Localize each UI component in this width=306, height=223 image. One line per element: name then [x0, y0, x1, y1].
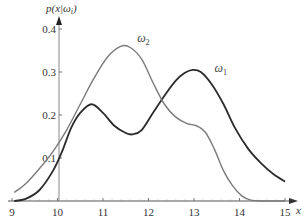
y-axis-arrow-icon	[56, 16, 62, 25]
x-tick-label: 9	[9, 206, 15, 218]
y-tick-label: 0.4	[42, 23, 56, 35]
x-axis-title: x	[295, 204, 301, 216]
x-tick-label: 15	[280, 206, 292, 218]
y-tick-label: 0.3	[42, 66, 56, 78]
series-label-2: ω2	[137, 31, 149, 47]
series-line-1	[14, 70, 285, 201]
x-tick-label: 10	[52, 206, 64, 218]
x-tick-label: 11	[98, 206, 109, 218]
y-axis: 0.10.20.30.4 p(x|ωi)	[42, 2, 77, 201]
series-label-1: ω1	[214, 61, 226, 77]
y-axis-title: p(x|ωi)	[45, 2, 77, 16]
y-tick-label: 0.2	[42, 109, 56, 121]
x-tick-label: 12	[143, 206, 154, 218]
x-tick-label: 14	[234, 206, 246, 218]
chart: 9101112131415 x 0.10.20.30.4 p(x|ωi) ω1ω…	[0, 0, 306, 223]
x-tick-label: 13	[189, 206, 201, 218]
